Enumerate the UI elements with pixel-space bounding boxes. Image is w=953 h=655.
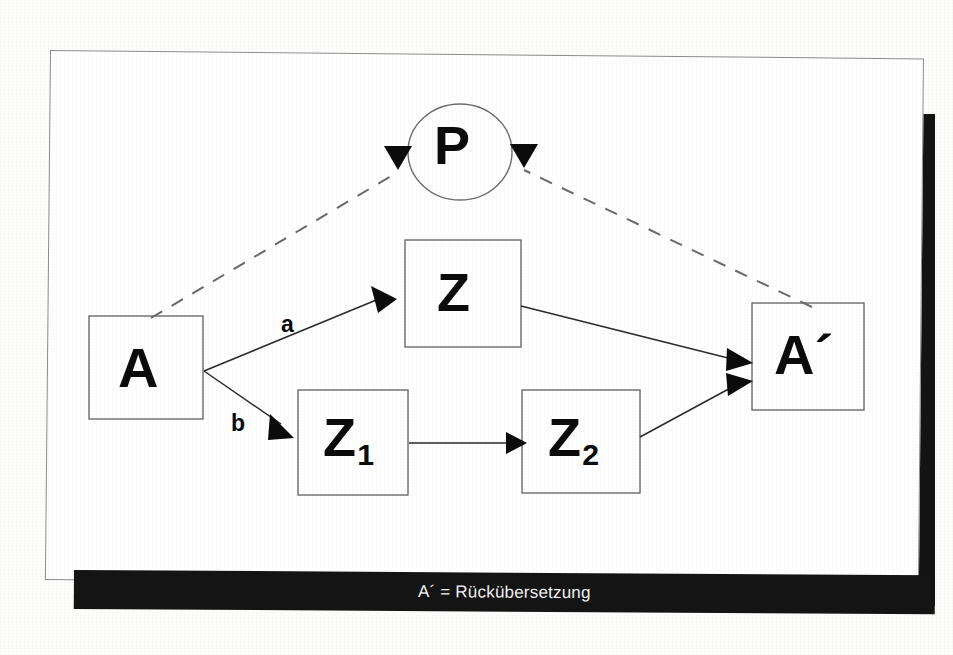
node-Z-label: Z: [437, 261, 470, 323]
node-Z2-subscript: 2: [582, 438, 599, 471]
node-Z1-subscript: 1: [357, 438, 374, 471]
node-A-label: A: [118, 335, 158, 400]
node-Z1-base: Z: [323, 407, 356, 467]
edge-label-a: a: [281, 311, 294, 338]
node-P-label: P: [434, 114, 470, 176]
node-Z2-label: Z2: [548, 406, 598, 468]
node-Z1-label: Z1: [323, 406, 373, 468]
edge-A-prime-to-P-dashed: [510, 144, 812, 307]
edge-A-to-Z1: [204, 371, 294, 440]
edge-Z1-to-Z2: [409, 432, 527, 454]
node-A-prime-label: A´: [774, 322, 833, 387]
edge-A-to-Z: [204, 286, 397, 371]
edge-label-b: b: [231, 410, 245, 437]
edge-Z2-to-A-prime: [640, 373, 753, 437]
node-Z2-base: Z: [548, 407, 581, 467]
figure-canvas: P A Z Z1 Z2 A´ a b A´ = Rückübersetzung: [0, 0, 953, 655]
edge-Z-to-A-prime: [521, 306, 753, 371]
